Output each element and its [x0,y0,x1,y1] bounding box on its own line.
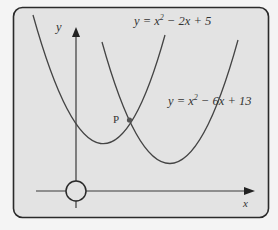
graph-figure: y x y = x2 − 2x + 5 y = x2 − 6x + 13 P [0,0,278,230]
curve-1-exponent: 2 [160,13,164,22]
origin-circle [66,181,86,201]
curve-2-prefix: y = x [168,94,194,108]
y-axis-label: y [56,21,62,34]
curve-2-exponent: 2 [194,93,198,102]
curve-1-suffix: − 2x + 5 [164,14,211,28]
curve-1-prefix: y = x [134,14,160,28]
curve-2-equation-label: y = x2 − 6x + 13 [168,94,251,108]
curve-1-equation-label: y = x2 − 2x + 5 [134,14,211,28]
intersection-label: P [113,114,119,125]
graph-canvas [0,0,278,230]
curve-2-suffix: − 6x + 13 [198,94,252,108]
x-axis-label: x [243,198,248,209]
intersection-point [127,117,132,122]
panel-frame [14,8,269,218]
